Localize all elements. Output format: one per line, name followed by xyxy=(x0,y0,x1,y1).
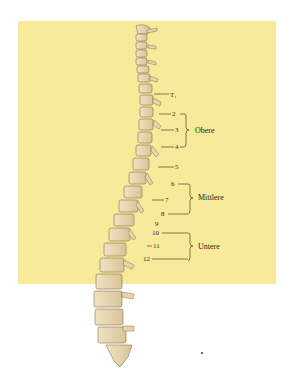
vertebrae xyxy=(94,25,153,367)
label-t11: 11 xyxy=(153,242,160,250)
label-t6: 6 xyxy=(171,180,175,188)
label-t4: 4 xyxy=(175,143,179,151)
label-t1: T₁ xyxy=(170,91,177,99)
label-t7: 7 xyxy=(165,196,169,204)
stray-mark xyxy=(201,352,203,354)
label-t2: 2 xyxy=(172,110,176,118)
spine-illustration xyxy=(0,0,294,371)
label-t8: 8 xyxy=(161,210,165,218)
label-t3: 3 xyxy=(175,126,179,134)
label-t10: 10 xyxy=(152,229,159,237)
group-label-upper: Obere xyxy=(195,126,215,135)
label-t9: 9 xyxy=(155,220,159,228)
group-label-middle: Mittlere xyxy=(198,193,224,202)
group-label-lower: Untere xyxy=(198,242,220,251)
label-t12: 12 xyxy=(143,255,150,263)
label-t5: 5 xyxy=(175,163,179,171)
